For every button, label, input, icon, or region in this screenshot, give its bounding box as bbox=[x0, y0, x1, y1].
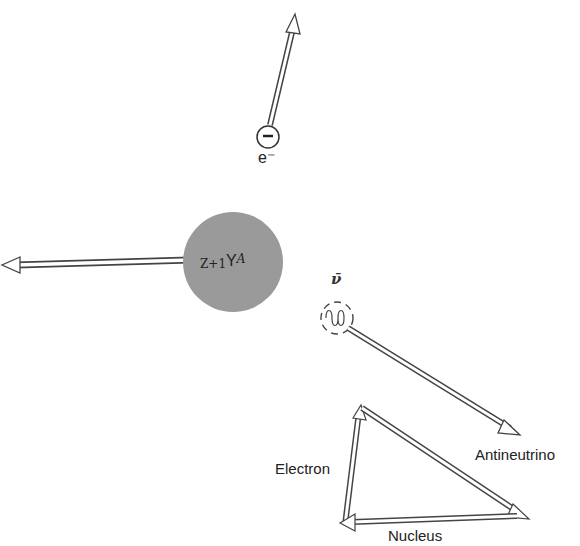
nucleus-mass-number: A bbox=[237, 252, 246, 266]
electron-momentum-arrow bbox=[270, 14, 300, 125]
nucleus-label: Nucleus bbox=[388, 527, 442, 544]
electron-particle bbox=[257, 126, 279, 148]
nucleus-prefix: Z+1 bbox=[200, 257, 226, 271]
triangle-electron-side bbox=[345, 405, 366, 525]
antineutrino-symbol: ν̄ bbox=[331, 270, 341, 288]
diagram-canvas: e⁻ Z+1YA ν̄ Antineutrino Electron Nucleu… bbox=[0, 0, 580, 546]
nucleus-element: Y bbox=[226, 252, 237, 269]
electron-symbol: e⁻ bbox=[258, 148, 275, 167]
nucleus-symbol: Z+1YA bbox=[200, 252, 245, 272]
electron-label: Electron bbox=[275, 460, 330, 477]
nucleus-recoil-arrow bbox=[2, 257, 190, 273]
antineutrino-label: Antineutrino bbox=[475, 446, 555, 463]
